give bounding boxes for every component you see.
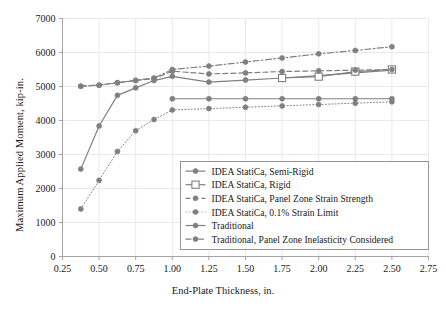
x-tick-label: 1.75 [273, 263, 291, 274]
series-1 [279, 66, 396, 82]
marker-filled-circle [152, 76, 157, 81]
marker-filled-circle [316, 51, 321, 56]
marker-filled-circle [78, 84, 83, 89]
marker-filled-circle [170, 67, 175, 72]
legend: IDEA StatiCa, Semi-RigidIDEA StatiCa, Ri… [181, 162, 429, 250]
legend-label: IDEA StatiCa, 0.1% Strain Limit [212, 207, 339, 218]
marker-filled-circle [206, 71, 211, 76]
marker-filled-circle [206, 106, 211, 111]
marker-filled-circle [170, 96, 175, 101]
legend-label: IDEA StatiCa, Rigid [212, 179, 291, 190]
marker-filled-circle [170, 107, 175, 112]
marker-filled-circle [97, 178, 102, 183]
marker-filled-circle [133, 85, 138, 90]
x-tick-label: 0.75 [127, 263, 145, 274]
series-2 [78, 67, 394, 89]
marker-filled-circle [152, 117, 157, 122]
marker-filled-circle [353, 68, 358, 73]
x-tick-label: 1.25 [200, 263, 218, 274]
legend-label: Traditional [212, 220, 255, 231]
marker-filled-circle [243, 96, 248, 101]
legend-label: IDEA StatiCa, Panel Zone Strain Strength [212, 193, 374, 204]
marker-filled-circle [316, 96, 321, 101]
chart-figure: Maximum Applied Moment, kip-in. End-Plat… [0, 0, 446, 309]
marker-filled-circle [193, 169, 198, 174]
marker-filled-circle [206, 80, 211, 85]
y-tick-label: 3000 [36, 149, 56, 160]
marker-filled-circle [280, 96, 285, 101]
marker-open-square [192, 181, 199, 188]
y-tick-label: 7000 [36, 13, 56, 24]
marker-filled-circle [243, 70, 248, 75]
marker-filled-circle [389, 67, 394, 72]
series-line [81, 70, 392, 87]
marker-filled-circle [243, 60, 248, 65]
marker-filled-circle [170, 74, 175, 79]
marker-filled-circle [193, 237, 198, 242]
y-tick-label: 4000 [36, 115, 56, 126]
marker-filled-circle [78, 206, 83, 211]
marker-filled-circle [389, 44, 394, 49]
marker-filled-circle [133, 128, 138, 133]
legend-label: IDEA StatiCa, Semi-Rigid [212, 166, 314, 177]
series-0 [78, 68, 394, 172]
series-4 [170, 96, 395, 101]
marker-filled-circle [115, 80, 120, 85]
marker-filled-circle [193, 223, 198, 228]
x-tick-label: 1.00 [164, 263, 182, 274]
marker-filled-circle [280, 55, 285, 60]
x-tick-label: 2.00 [310, 263, 328, 274]
marker-filled-circle [316, 68, 321, 73]
y-tick-label: 6000 [36, 47, 56, 58]
marker-filled-circle [193, 209, 198, 214]
marker-filled-circle [78, 167, 83, 172]
marker-filled-circle [115, 93, 120, 98]
legend-entry-2: IDEA StatiCa, Panel Zone Strain Strength [186, 193, 374, 204]
marker-open-square [315, 73, 322, 80]
marker-filled-circle [133, 78, 138, 83]
marker-filled-circle [193, 196, 198, 201]
marker-filled-circle [316, 102, 321, 107]
plot-canvas: 0.250.500.751.001.251.501.752.002.252.50… [0, 0, 446, 309]
x-tick-label: 2.75 [420, 263, 438, 274]
x-tick-label: 2.50 [383, 263, 401, 274]
marker-filled-circle [353, 48, 358, 53]
marker-filled-circle [280, 69, 285, 74]
legend-entry-5: Traditional, Panel Zone Inelasticity Con… [186, 234, 394, 245]
marker-filled-circle [97, 123, 102, 128]
marker-filled-circle [97, 83, 102, 88]
y-tick-label: 0 [51, 251, 56, 262]
y-tick-label: 2000 [36, 183, 56, 194]
x-tick-label: 1.50 [237, 263, 255, 274]
marker-filled-circle [280, 103, 285, 108]
marker-filled-circle [389, 96, 394, 101]
y-tick-label: 1000 [36, 217, 56, 228]
marker-filled-circle [353, 96, 358, 101]
y-tick-label: 5000 [36, 81, 56, 92]
x-tick-label: 2.25 [347, 263, 365, 274]
marker-filled-circle [243, 78, 248, 83]
marker-filled-circle [206, 64, 211, 69]
x-tick-label: 0.50 [90, 263, 108, 274]
legend-label: Traditional, Panel Zone Inelasticity Con… [212, 234, 394, 245]
marker-filled-circle [206, 96, 211, 101]
marker-filled-circle [243, 105, 248, 110]
marker-filled-circle [115, 149, 120, 154]
marker-open-square [279, 74, 286, 81]
x-tick-label: 0.25 [54, 263, 72, 274]
